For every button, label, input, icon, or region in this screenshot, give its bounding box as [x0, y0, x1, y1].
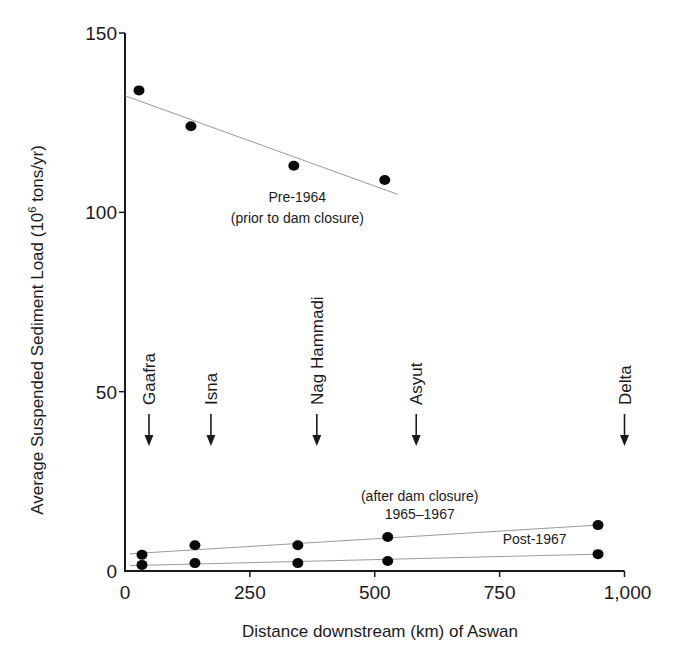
arrowhead-icon — [312, 435, 321, 446]
station-label: Isna — [202, 372, 221, 405]
data-point — [288, 161, 299, 171]
annotation-label: Post-1967 — [503, 531, 567, 547]
y-axis-title: Average Suspended Sediment Load (106 ton… — [26, 145, 47, 515]
data-point — [136, 560, 147, 570]
data-point — [136, 550, 147, 560]
x-axis-title: Distance downstream (km) of Aswan — [242, 622, 518, 641]
x-tick-label: 0 — [120, 582, 131, 603]
station-marker: Gaafra — [140, 352, 159, 446]
data-point — [382, 556, 393, 566]
sediment-load-chart: 050100150 02505007501,000 Pre-1964(prior… — [0, 0, 675, 661]
y-tick-label: 0 — [106, 561, 117, 582]
station-marker: Isna — [202, 372, 221, 446]
data-point — [593, 520, 604, 530]
x-tick-label: 1,000 — [604, 582, 652, 603]
data-point — [133, 85, 144, 95]
data-point — [593, 549, 604, 559]
arrowhead-icon — [206, 435, 215, 446]
data-point — [189, 540, 200, 550]
data-point — [292, 540, 303, 550]
station-markers: GaafraIsnaNag HammadiAsyutDelta — [140, 296, 635, 446]
data-point — [382, 532, 393, 542]
y-axis-title-tail: tons/yr) — [28, 145, 47, 206]
y-tick-label: 150 — [85, 23, 117, 44]
station-label: Nag Hammadi — [308, 296, 327, 405]
station-label: Delta — [616, 365, 635, 405]
annotation-label: (prior to dam closure) — [231, 210, 364, 226]
annotations: Pre-1964(prior to dam closure)(after dam… — [231, 189, 567, 548]
data-point — [185, 121, 196, 131]
x-tick-label: 750 — [484, 582, 516, 603]
arrowhead-icon — [412, 435, 421, 446]
x-axis: 02505007501,000 — [120, 571, 652, 603]
station-label: Asyut — [407, 362, 426, 405]
y-tick-label: 100 — [85, 202, 117, 223]
y-axis-title-main: Average Suspended Sediment Load (10 — [28, 213, 47, 515]
x-tick-label: 250 — [234, 582, 266, 603]
station-marker: Nag Hammadi — [308, 296, 327, 446]
arrowhead-icon — [620, 435, 629, 446]
x-tick-label: 500 — [359, 582, 391, 603]
data-point — [189, 558, 200, 568]
trendline — [125, 96, 398, 195]
annotation-label: (after dam closure) — [361, 488, 478, 504]
station-marker: Asyut — [407, 362, 426, 446]
annotation-label: Pre-1964 — [269, 189, 327, 205]
data-point — [379, 175, 390, 185]
y-tick-label: 50 — [96, 382, 117, 403]
arrowhead-icon — [144, 435, 153, 446]
data-point — [292, 558, 303, 568]
station-label: Gaafra — [140, 352, 159, 405]
annotation-label: 1965–1967 — [385, 506, 455, 522]
y-axis: 050100150 — [85, 23, 125, 582]
station-marker: Delta — [616, 365, 635, 446]
